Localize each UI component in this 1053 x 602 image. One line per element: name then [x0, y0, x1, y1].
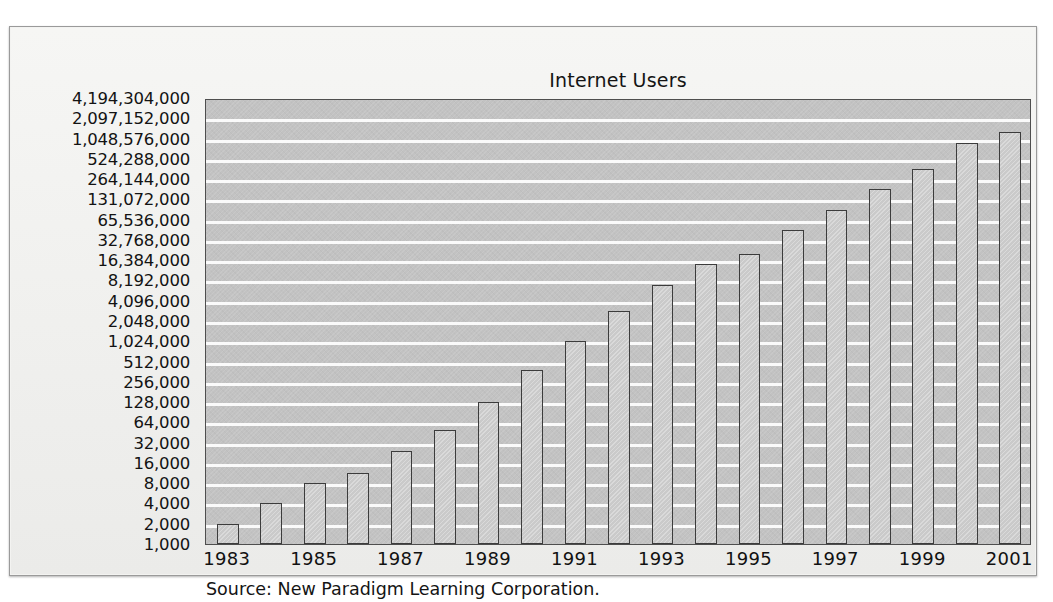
bar-1991: [565, 341, 587, 544]
bar-1995: [739, 254, 761, 544]
y-axis-tick-label: 8,192,000: [108, 273, 190, 289]
y-axis-tick-label: 32,768,000: [98, 233, 190, 249]
bar-1984: [260, 503, 282, 544]
y-axis-tick-label: 128,000: [123, 395, 190, 411]
bar-series: [206, 100, 1030, 544]
y-axis-tick-label: 8,000: [144, 476, 190, 492]
page-title: Internet Users: [205, 69, 1031, 91]
y-axis-tick-label: 1,024,000: [108, 334, 190, 350]
x-axis-labels: 1983198519871989199119931995199719992001: [205, 548, 1031, 578]
chart-card: Internet Users 4,194,304,0002,097,152,00…: [9, 26, 1037, 576]
bar-1987: [391, 451, 413, 544]
bar-1992: [608, 311, 630, 544]
bar-1985: [304, 483, 326, 544]
bar-1989: [478, 402, 500, 544]
bar-1999: [912, 169, 934, 544]
x-axis-tick-label: 1985: [290, 548, 337, 569]
y-axis-tick-label: 1,048,576,000: [72, 132, 190, 148]
y-axis-tick-label: 32,000: [133, 436, 190, 452]
y-axis-tick-label: 4,194,304,000: [72, 91, 190, 107]
bar-1993: [652, 285, 674, 544]
bar-1983: [217, 524, 239, 544]
y-axis-tick-label: 264,144,000: [87, 172, 190, 188]
x-axis-tick-label: 1983: [203, 548, 250, 569]
y-axis-tick-label: 512,000: [123, 355, 190, 371]
screenshot-page: Internet Users 4,194,304,0002,097,152,00…: [0, 0, 1053, 602]
bar-1986: [347, 473, 369, 544]
source-note: Source: New Paradigm Learning Corporatio…: [206, 579, 600, 599]
y-axis-tick-label: 65,536,000: [98, 213, 190, 229]
bar-1994: [695, 264, 717, 544]
bar-2000: [956, 143, 978, 544]
x-axis-tick-label: 1987: [377, 548, 424, 569]
bar-2001: [999, 132, 1021, 544]
y-axis-tick-label: 2,048,000: [108, 314, 190, 330]
x-axis-tick-label: 1991: [551, 548, 598, 569]
bar-1990: [521, 370, 543, 544]
x-axis-tick-label: 1989: [464, 548, 511, 569]
y-axis-tick-label: 256,000: [123, 375, 190, 391]
x-axis-tick-label: 1997: [812, 548, 859, 569]
y-axis-tick-label: 2,000: [144, 517, 190, 533]
y-axis-tick-label: 131,072,000: [87, 192, 190, 208]
bar-1988: [434, 430, 456, 544]
plot-area: [205, 99, 1031, 545]
y-axis-tick-label: 1,000: [144, 537, 190, 553]
y-axis-tick-label: 4,000: [144, 496, 190, 512]
bar-1998: [869, 189, 891, 544]
x-axis-tick-label: 1995: [725, 548, 772, 569]
bar-1996: [782, 230, 804, 544]
x-axis-tick-label: 2001: [986, 548, 1033, 569]
y-axis-tick-label: 64,000: [133, 415, 190, 431]
x-axis-tick-label: 1993: [638, 548, 685, 569]
bar-1997: [826, 210, 848, 545]
y-axis-labels: 4,194,304,0002,097,152,0001,048,576,0005…: [20, 99, 198, 545]
y-axis-tick-label: 524,288,000: [87, 152, 190, 168]
y-axis-tick-label: 16,384,000: [98, 253, 190, 269]
y-axis-tick-label: 4,096,000: [108, 294, 190, 310]
y-axis-tick-label: 16,000: [133, 456, 190, 472]
y-axis-tick-label: 2,097,152,000: [72, 111, 190, 127]
x-axis-tick-label: 1999: [899, 548, 946, 569]
